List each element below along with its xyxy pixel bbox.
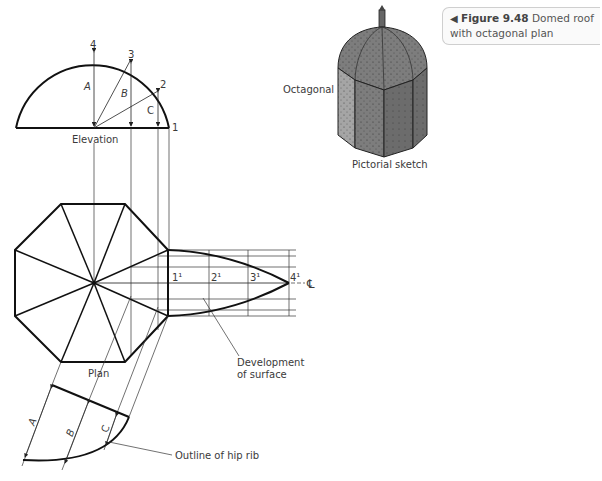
plan-view: Plan [15,204,168,379]
figure-caption: ◀ Figure 9.48 Domed roof with octagonal … [442,7,600,45]
figure-number: Figure 9.48 [461,12,529,24]
octagonal-label: Octagonal [283,84,334,95]
development-outline: 1¹ 2¹ 3¹ 4¹ ℄ Development of surface [168,250,315,380]
elevation-label: Elevation [72,134,118,145]
hip-rib: A B C Outline of hip rib [22,296,259,470]
plan-label: Plan [88,368,109,379]
dev-point-1: 1¹ [172,272,182,283]
dev-point-4: 4¹ [290,272,300,283]
elev-point-1: 1 [172,122,178,133]
elev-point-3: 3 [128,49,134,60]
elev-height-B: B [121,88,128,99]
development-grid [94,250,296,316]
domed-roof-drawing: 4 3 2 1 A B C Elevation 1¹ 2¹ 3¹ 4¹ ℄ De… [0,0,602,481]
rib-height-C: C [99,423,112,434]
elevation-view: 4 3 2 1 A B C Elevation [16,39,178,355]
development-label-line1: Development [237,357,304,368]
hip-rib-label: Outline of hip rib [175,450,259,461]
caption-arrow-icon: ◀ [450,13,458,24]
elev-point-2: 2 [160,79,166,90]
elev-height-C: C [147,105,154,116]
development-label-line2: of surface [237,369,287,380]
elev-point-4: 4 [90,39,96,50]
centerline-symbol: ℄ [306,277,315,291]
dev-point-3: 3¹ [250,272,260,283]
finial-icon [379,10,385,27]
elev-height-A: A [83,81,91,92]
pictorial-sketch-label: Pictorial sketch [352,159,428,170]
pictorial-sketch: Octagonal Pictorial sketch [283,5,428,170]
dev-point-2: 2¹ [211,272,221,283]
